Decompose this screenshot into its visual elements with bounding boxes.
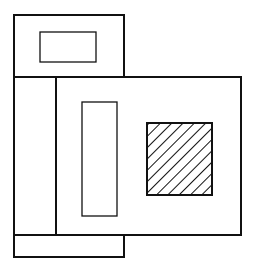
hatched-square (147, 123, 212, 195)
left-column (14, 77, 56, 235)
tall-inner-rect (82, 102, 117, 216)
top-inner-rect (40, 32, 96, 62)
bottom-block (14, 235, 124, 257)
block-diagram (0, 0, 255, 270)
top-block (14, 15, 124, 77)
